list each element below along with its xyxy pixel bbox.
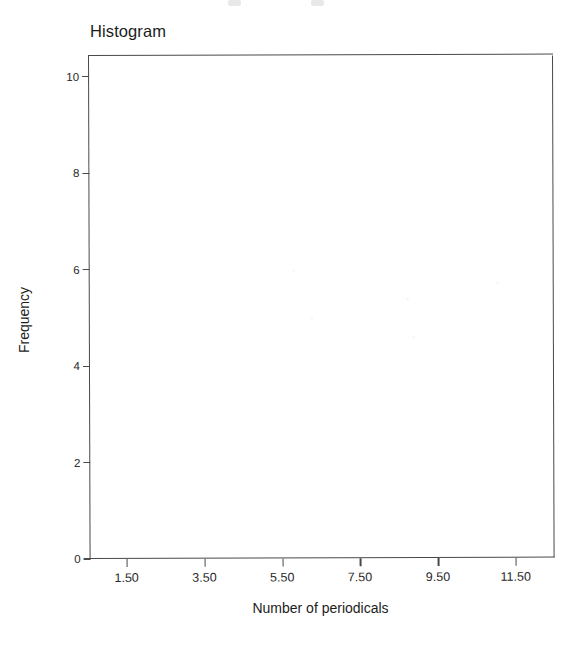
y-axis-tick-label: 6 — [73, 264, 79, 276]
y-axis-tick-label: 4 — [74, 360, 80, 372]
y-axis-title: Frequency — [16, 287, 32, 353]
x-axis-tick-label: 3.50 — [192, 571, 216, 585]
x-axis-tick-mark — [438, 558, 439, 566]
y-axis-tick-label: 8 — [73, 167, 79, 179]
x-axis-tick-mark — [360, 558, 361, 566]
x-axis-title: Number of periodicals — [88, 600, 553, 616]
x-axis-tick-label: 1.50 — [114, 571, 138, 585]
chart-title: Histogram — [90, 22, 166, 41]
y-axis-tick-mark — [83, 269, 90, 270]
scan-bleed-artifact — [0, 0, 581, 10]
y-axis-tick-mark — [83, 365, 90, 366]
scan-noise-artifact — [240, 235, 541, 396]
y-axis-tick-label: 0 — [74, 553, 80, 565]
x-axis-tick-mark — [204, 559, 205, 567]
x-axis-tick-label: 11.50 — [501, 570, 531, 584]
scan-bleed-blob — [311, 0, 324, 6]
plot-frame: 0246810 1.503.505.507.509.5011.50 — [88, 54, 555, 559]
axis-spine-right — [552, 56, 555, 558]
x-axis-tick-label: 5.50 — [270, 570, 294, 584]
y-axis-tick-label: 10 — [66, 71, 79, 83]
y-axis-tick-mark — [82, 173, 89, 174]
plot-area — [89, 55, 554, 558]
y-axis-tick-mark — [83, 462, 90, 463]
x-axis-tick-label: 7.50 — [348, 570, 372, 584]
x-axis-tick-mark — [127, 559, 128, 567]
y-axis-tick-mark — [84, 558, 91, 559]
axis-spine-bottom — [90, 557, 555, 560]
x-axis-tick-label: 9.50 — [426, 570, 450, 584]
x-axis-tick-mark — [282, 558, 283, 566]
y-axis-tick-label: 2 — [74, 457, 80, 469]
scan-bleed-blob — [228, 0, 241, 6]
histogram-figure: Histogram Frequency 0246810 1.503.505.50… — [0, 0, 581, 647]
y-axis-tick-mark — [82, 76, 89, 77]
x-axis-tick-mark — [516, 558, 517, 566]
